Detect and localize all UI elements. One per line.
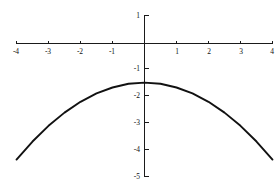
y-tick-label: -3 [134,118,140,127]
y-tick-label: -1 [134,64,140,73]
x-tick-label: 1 [175,47,179,56]
x-tick-label: 3 [239,47,243,56]
y-tick-label: -5 [134,172,140,181]
figure-background [0,0,280,184]
x-tick-label: -3 [45,47,51,56]
plot-canvas: -4 -3 -2 -1 1 2 3 4 1 -1 -2 -3 -4 -5 [0,0,280,184]
x-tick-label: -2 [77,47,83,56]
y-tick-label: -4 [134,145,140,154]
y-tick-label: 1 [136,11,140,20]
x-tick-label: 4 [270,47,274,56]
chart-figure: -4 -3 -2 -1 1 2 3 4 1 -1 -2 -3 -4 -5 [0,0,280,184]
x-tick-label: -1 [109,47,115,56]
x-tick-label: 2 [207,47,211,56]
x-tick-label: -4 [13,47,19,56]
y-tick-label: -2 [134,91,140,100]
